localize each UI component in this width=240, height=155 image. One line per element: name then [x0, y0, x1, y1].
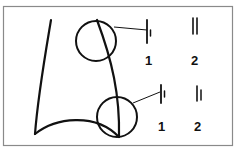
upper-label-2: 2: [191, 54, 198, 67]
lower-label-1: 1: [158, 120, 165, 133]
wedge-left-edge: [35, 20, 51, 134]
lower-leader-line: [133, 92, 160, 103]
lower-symbol-2-icon: [197, 86, 201, 101]
upper-magnifier-circle: [76, 21, 116, 61]
upper-symbol-2-icon: [193, 18, 197, 34]
upper-symbol-1-icon: [147, 20, 151, 43]
upper-leader-line: [114, 27, 147, 30]
lower-label-2: 2: [194, 120, 201, 133]
lower-symbol-1-icon: [161, 85, 165, 103]
upper-label-1: 1: [145, 54, 152, 67]
diagram-canvas: [0, 0, 240, 155]
